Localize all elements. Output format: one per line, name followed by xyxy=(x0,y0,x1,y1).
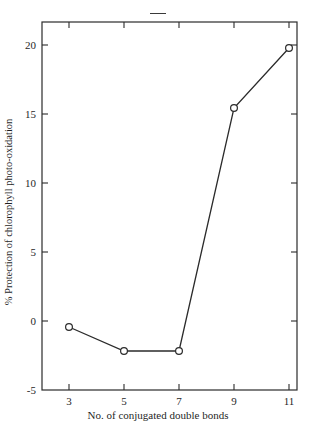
ytick-label-15: 15 xyxy=(16,108,36,120)
xtick-label-3: 3 xyxy=(66,395,72,407)
plot-frame xyxy=(42,22,297,390)
plot-canvas xyxy=(0,0,316,435)
data-point xyxy=(231,105,238,112)
xtick-label-5: 5 xyxy=(121,395,127,407)
xtick-label-9: 9 xyxy=(231,395,237,407)
chart-figure: 20 15 10 5 0 -5 3 5 7 9 11 % Protection … xyxy=(0,0,316,435)
data-point-markers xyxy=(66,45,293,355)
y-axis-ticks xyxy=(42,45,48,321)
ytick-label-minus5: -5 xyxy=(12,384,36,396)
x-axis-ticks-top xyxy=(69,22,289,28)
data-point xyxy=(176,348,183,355)
x-axis-ticks xyxy=(69,384,289,390)
data-line-series-1 xyxy=(69,48,289,351)
y-axis-ticks-right xyxy=(291,45,297,321)
xtick-label-7: 7 xyxy=(176,395,182,407)
data-point xyxy=(286,45,293,52)
xtick-label-11: 11 xyxy=(284,395,295,407)
ytick-label-5: 5 xyxy=(16,246,36,258)
data-point xyxy=(121,348,128,355)
x-axis-title: No. of conjugated double bonds xyxy=(0,409,316,421)
ytick-label-0: 0 xyxy=(16,315,36,327)
data-point xyxy=(66,324,73,331)
ytick-label-10: 10 xyxy=(16,177,36,189)
y-axis-title: % Protection of chlorophyll photo-oxidat… xyxy=(3,119,14,306)
ytick-label-20: 20 xyxy=(16,39,36,51)
